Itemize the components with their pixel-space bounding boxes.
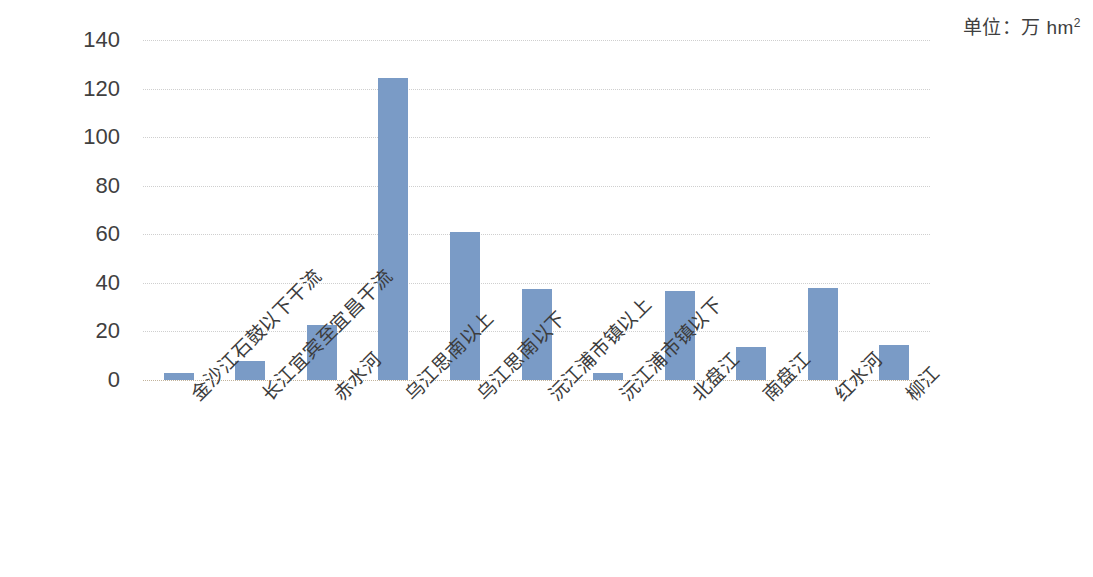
bar[interactable] bbox=[378, 78, 408, 380]
y-axis-tick-label: 80 bbox=[96, 173, 120, 199]
gridline-140 bbox=[143, 40, 930, 41]
unit-annotation-exponent: 2 bbox=[1074, 16, 1081, 30]
y-axis-tick-label: 60 bbox=[96, 221, 120, 247]
gridline-40 bbox=[143, 283, 930, 284]
x-axis-tick-labels: 金沙江石鼓以下干流长江宜宾至宜昌干流赤水河乌江思南以上乌江思南以下沅江浦市镇以上… bbox=[0, 386, 1093, 577]
y-axis-tick-label: 40 bbox=[96, 270, 120, 296]
bar-chart: 单位：万 hm2 020406080100120140 金沙江石鼓以下干流长江宜… bbox=[0, 0, 1093, 577]
y-axis-tick-labels: 020406080100120140 bbox=[60, 40, 132, 380]
y-axis-tick-label: 140 bbox=[83, 27, 120, 53]
gridline-60 bbox=[143, 234, 930, 235]
gridline-100 bbox=[143, 137, 930, 138]
gridline-120 bbox=[143, 89, 930, 90]
y-axis-tick-label: 20 bbox=[96, 318, 120, 344]
gridline-80 bbox=[143, 186, 930, 187]
y-axis-tick-label: 120 bbox=[83, 76, 120, 102]
y-axis-tick-label: 100 bbox=[83, 124, 120, 150]
unit-annotation-text: 单位：万 hm bbox=[963, 17, 1074, 38]
unit-annotation: 单位：万 hm2 bbox=[963, 12, 1081, 39]
